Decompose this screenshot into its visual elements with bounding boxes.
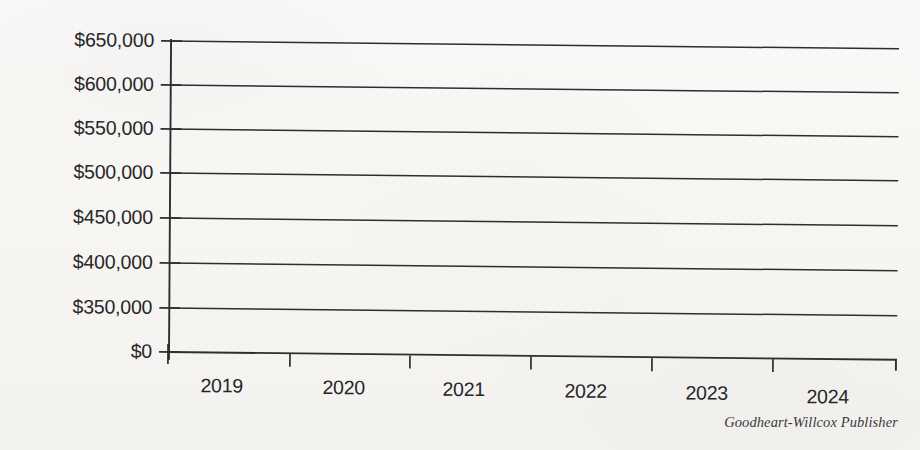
x-tick-label-2020: 2020 bbox=[322, 378, 365, 398]
gridline-600000 bbox=[170, 85, 899, 93]
y-axis-line bbox=[169, 39, 171, 360]
line-chart: $650,000 $600,000 $550,000 $500,000 $450… bbox=[0, 0, 920, 450]
gridlines bbox=[168, 41, 899, 316]
publisher-credit: Goodheart-Willcox Publisher bbox=[724, 414, 898, 431]
gridline-450000 bbox=[169, 218, 898, 226]
gridline-350000 bbox=[168, 308, 897, 316]
gridline-400000 bbox=[169, 263, 898, 271]
gridline-500000 bbox=[169, 173, 898, 181]
x-tick-label-2023: 2023 bbox=[685, 383, 728, 403]
x-tick-label-2019: 2019 bbox=[200, 376, 243, 396]
x-tick-label-2021: 2021 bbox=[442, 380, 485, 400]
x-tick-label-2022: 2022 bbox=[564, 382, 607, 402]
gridline-650000 bbox=[170, 41, 899, 49]
x-axis-line bbox=[168, 352, 897, 360]
gridline-550000 bbox=[169, 129, 898, 137]
chart-skew-wrapper: $650,000 $600,000 $550,000 $500,000 $450… bbox=[0, 0, 920, 450]
x-tick-label-2024: 2024 bbox=[806, 387, 849, 407]
